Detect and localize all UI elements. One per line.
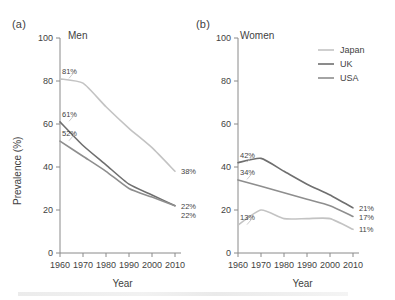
y-tick-label: 60: [221, 119, 231, 129]
end-value-label-usa: 17%: [359, 213, 374, 222]
x-tick-label: 2000: [320, 260, 340, 270]
y-tick-label: 0: [226, 248, 231, 258]
series-line-usa: [60, 141, 175, 206]
x-tick-label: 2010: [343, 260, 363, 270]
series-line-uk: [60, 122, 175, 206]
x-tick-label: 1960: [50, 260, 70, 270]
start-value-label-usa: 34%: [240, 168, 255, 177]
series-line-uk: [238, 158, 353, 208]
series-line-japan: [238, 210, 353, 229]
x-tick-label: 2000: [142, 260, 162, 270]
series-line-japan: [60, 79, 175, 171]
y-tick-label: 40: [43, 162, 53, 172]
y-tick-label: 80: [221, 76, 231, 86]
start-value-label-uk: 61%: [62, 110, 77, 119]
panel-a-plot: 02040608010019601970198019902000201081%6…: [0, 0, 200, 300]
x-tick-label: 1970: [251, 260, 271, 270]
start-value-label-usa: 52%: [62, 129, 77, 138]
y-tick-label: 0: [48, 248, 53, 258]
x-tick-label: 1970: [73, 260, 93, 270]
y-tick-label: 100: [38, 33, 53, 43]
y-tick-label: 20: [43, 205, 53, 215]
legend-label-uk: UK: [340, 59, 353, 69]
panel-a-men: (a) Men Prevalence (%) Year 020406080100…: [0, 0, 200, 300]
start-value-label-uk: 42%: [240, 151, 255, 160]
end-value-label-japan: 11%: [359, 225, 374, 234]
legend-label-usa: USA: [340, 73, 359, 83]
x-tick-label: 1960: [228, 260, 248, 270]
y-tick-label: 60: [43, 119, 53, 129]
figure-smoking-prevalence: (a) Men Prevalence (%) Year 020406080100…: [0, 0, 395, 300]
y-tick-label: 40: [221, 162, 231, 172]
caption-strip: [18, 292, 348, 296]
panel-b-plot: 02040608010019601970198019902000201042%3…: [190, 0, 395, 300]
x-tick-label: 1980: [274, 260, 294, 270]
start-value-label-japan: 13%: [240, 213, 255, 222]
x-tick-label: 1990: [297, 260, 317, 270]
x-tick-label: 2010: [165, 260, 185, 270]
x-tick-label: 1980: [96, 260, 116, 270]
panel-b-women: (b) Women Year 0204060801001960197019801…: [190, 0, 395, 300]
legend-label-japan: Japan: [340, 45, 365, 55]
y-tick-label: 20: [221, 205, 231, 215]
end-value-label-uk: 21%: [359, 204, 374, 213]
y-tick-label: 80: [43, 76, 53, 86]
y-tick-label: 100: [216, 33, 231, 43]
start-value-label-japan: 81%: [62, 67, 77, 76]
x-tick-label: 1990: [119, 260, 139, 270]
